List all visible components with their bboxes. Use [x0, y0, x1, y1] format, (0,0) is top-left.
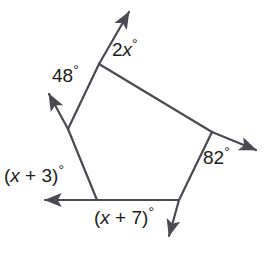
angle-label-x-plus-7-operator: + — [110, 207, 132, 228]
angle-label-x-plus-7: (x + 7)° — [94, 208, 154, 227]
angle-label-82: 82° — [203, 148, 230, 167]
angle-label-48-value: 48 — [52, 65, 73, 86]
angle-label-x-plus-7-constant: 7 — [131, 207, 142, 228]
angle-label-48-degree: ° — [73, 62, 79, 78]
side-bottomleft-to-left — [68, 129, 97, 200]
angle-label-x-plus-3-constant: 3 — [41, 165, 52, 186]
angle-label-x-plus-3-degree: ° — [58, 162, 64, 178]
angle-label-x-plus-3-operator: + — [20, 165, 42, 186]
angle-label-x-plus-7-variable: x — [100, 207, 110, 228]
angle-label-2x-degree: ° — [132, 36, 138, 52]
angle-label-82-value: 82 — [203, 147, 224, 168]
ray-upper-left-arrow — [49, 94, 68, 129]
ray-bottom-right-arrow — [169, 200, 179, 236]
angle-label-2x-variable: x — [123, 39, 133, 60]
angle-label-48: 48° — [52, 66, 79, 85]
geometry-diagram: 2x° 48° 82° (x + 3)° (x + 7)° — [0, 0, 276, 253]
angle-label-x-plus-7-degree: ° — [148, 204, 154, 220]
exterior-rays — [45, 12, 256, 236]
pentagon-sides — [68, 64, 212, 200]
angle-label-x-plus-3-variable: x — [10, 165, 20, 186]
angle-label-2x-coefficient: 2 — [112, 39, 123, 60]
angle-label-2x: 2x° — [112, 40, 138, 59]
side-top-to-right — [99, 64, 212, 132]
angle-label-x-plus-3: (x + 3)° — [4, 166, 64, 185]
angle-label-82-degree: ° — [224, 144, 230, 160]
